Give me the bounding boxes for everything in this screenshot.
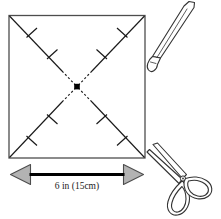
cutting-diagram-illustration: 6 in (15cm) <box>0 0 221 219</box>
scissors-bottom <box>147 143 212 215</box>
dimension-arrowhead-right <box>124 165 144 185</box>
center-marker <box>74 84 80 90</box>
diagram-canvas: 6 in (15cm) <box>0 0 221 219</box>
dimension-label: 6 in (15cm) <box>55 181 99 192</box>
dimension-arrowhead-left <box>11 165 31 185</box>
scissors-blade-top <box>147 2 194 72</box>
